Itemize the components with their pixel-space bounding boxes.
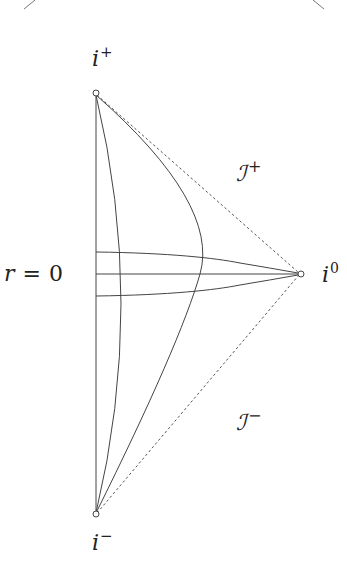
top-left-arc-fragment bbox=[24, 0, 35, 9]
label-i-plus: i+ bbox=[92, 43, 113, 71]
future-timelike-infinity-point bbox=[93, 90, 99, 96]
constant-t-slice-upper bbox=[96, 252, 298, 273]
top-right-arc-fragment bbox=[313, 0, 324, 9]
label-i-minus: i− bbox=[92, 527, 113, 555]
constant-r-curve-outer bbox=[96, 95, 203, 513]
label-scri-plus: ℐ+ bbox=[236, 157, 261, 186]
penrose-diagram: i+ i− i0 ℐ+ ℐ− r=0 bbox=[0, 0, 347, 568]
label-scri-minus: ℐ− bbox=[236, 406, 261, 435]
past-timelike-infinity-point bbox=[93, 511, 99, 517]
future-null-infinity-boundary bbox=[97, 95, 299, 273]
past-null-infinity-boundary bbox=[97, 275, 299, 513]
label-r-equals-zero: r=0 bbox=[4, 261, 63, 286]
spatial-infinity-point bbox=[298, 271, 304, 277]
constant-r-curve-inner bbox=[96, 95, 121, 513]
label-i-zero: i0 bbox=[322, 260, 339, 287]
